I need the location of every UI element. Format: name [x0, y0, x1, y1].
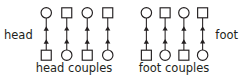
couple-bottom-node-square: [179, 50, 189, 60]
up-arrow-icon: [200, 26, 205, 30]
couple-column: [141, 8, 151, 61]
couple-bottom-node-circle: [160, 50, 170, 60]
couple-bottom-node-square: [82, 50, 92, 60]
couple-bottom-node-circle: [197, 50, 207, 60]
couple-column: [103, 8, 113, 61]
couple-column: [179, 8, 189, 61]
couple-top-node-circle: [179, 8, 189, 18]
head-side-label: head: [4, 30, 33, 42]
couple-column: [62, 8, 72, 61]
up-arrow-icon: [144, 26, 149, 30]
couple-bottom-node-circle: [103, 50, 113, 60]
couple-bottom-node-square: [41, 50, 51, 60]
up-arrow-icon: [144, 39, 149, 43]
couple-bottom-node-square: [141, 50, 151, 60]
up-arrow-icon: [44, 26, 49, 30]
up-arrow-icon: [105, 26, 110, 30]
head-couples-group: [36, 7, 118, 61]
up-arrow-icon: [181, 26, 186, 30]
foot-side-label: foot: [215, 30, 238, 42]
couple-top-node-circle: [41, 8, 51, 18]
foot-couples-caption: foot couples: [128, 63, 220, 75]
couple-top-node-square: [62, 8, 72, 18]
couple-top-node-square: [198, 8, 208, 18]
couple-top-node-circle: [82, 8, 92, 18]
up-arrow-icon: [181, 39, 186, 43]
up-arrow-icon: [85, 39, 90, 43]
up-arrow-icon: [44, 39, 49, 43]
couple-top-node-square: [160, 8, 170, 18]
couple-column: [160, 8, 170, 61]
up-arrow-icon: [200, 39, 205, 43]
couple-top-node-circle: [141, 8, 151, 18]
foot-couples-group: [137, 7, 212, 61]
foot-couples-graphic: [137, 7, 212, 61]
up-arrow-icon: [85, 26, 90, 30]
couple-top-node-square: [103, 8, 113, 18]
up-arrow-icon: [163, 39, 168, 43]
up-arrow-icon: [105, 39, 110, 43]
couples-diagram: head foot head couples foot couples: [0, 0, 242, 80]
couple-column: [82, 8, 92, 61]
up-arrow-icon: [64, 26, 69, 30]
up-arrow-icon: [64, 39, 69, 43]
couple-column: [197, 8, 207, 61]
couple-column: [41, 8, 51, 61]
head-couples-graphic: [36, 7, 118, 61]
head-couples-caption: head couples: [28, 63, 120, 75]
couple-bottom-node-circle: [62, 50, 72, 60]
up-arrow-icon: [163, 26, 168, 30]
